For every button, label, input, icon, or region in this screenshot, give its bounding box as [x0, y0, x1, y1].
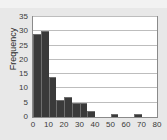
histogram-bar [56, 100, 64, 117]
histogram-bar [33, 34, 41, 117]
histogram-bar [72, 103, 80, 117]
histogram-bar [64, 97, 72, 117]
x-tick-label: 20 [56, 121, 72, 129]
histogram-bar [41, 31, 49, 117]
y-tick-label: 15 [19, 70, 28, 78]
x-tick-label: 10 [41, 121, 57, 129]
histogram-bar [111, 114, 119, 117]
x-tick-label: 70 [134, 121, 150, 129]
x-tick-label: 30 [72, 121, 88, 129]
y-tick-label: 10 [19, 84, 28, 92]
histogram-bar [80, 103, 88, 117]
x-tick-label: 0 [25, 121, 41, 129]
histogram-bar [134, 114, 142, 117]
x-axis-tick-labels: 01020304050607080 [0, 121, 167, 137]
x-tick-label: 50 [103, 121, 119, 129]
y-tick-label: 25 [19, 42, 28, 50]
histogram-bar [87, 111, 95, 117]
x-tick-label: 40 [87, 121, 103, 129]
y-tick-label: 35 [19, 13, 28, 21]
histogram-bar [49, 77, 57, 117]
histogram-figure: Frequency 05101520253035 010203040506070… [0, 0, 167, 140]
y-tick-label: 30 [19, 27, 28, 35]
y-tick-label: 0 [24, 113, 28, 121]
y-tick-label: 5 [24, 99, 28, 107]
plot-area [32, 16, 158, 118]
y-tick-label: 20 [19, 56, 28, 64]
x-tick-label: 60 [118, 121, 134, 129]
bars-layer [33, 17, 157, 117]
x-tick-label: 80 [149, 121, 165, 129]
y-axis-tick-labels: 05101520253035 [0, 0, 32, 140]
